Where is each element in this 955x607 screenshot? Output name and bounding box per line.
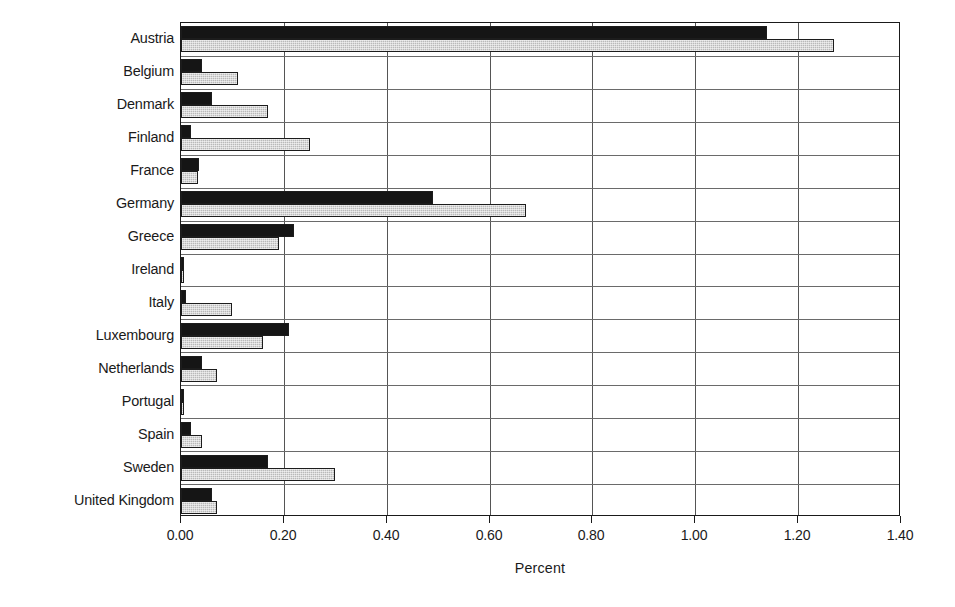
category-axis-labels: AustriaBelgiumDenmarkFinlandFranceGerman…	[0, 22, 174, 516]
category-label: France	[12, 162, 174, 178]
plot-area	[180, 22, 900, 516]
bar-group	[181, 352, 899, 385]
bar-series-1	[181, 92, 212, 105]
bar-series-1	[181, 257, 184, 270]
bar-series-2	[181, 39, 834, 52]
bar-series-1	[181, 455, 268, 468]
bar-series-1	[181, 191, 433, 204]
axis-tick	[900, 516, 901, 523]
category-label: Luxembourg	[12, 327, 174, 343]
bar-group	[181, 188, 899, 221]
axis-tick	[283, 516, 284, 523]
bar-series-2	[181, 237, 279, 250]
bar-group	[181, 254, 899, 287]
bar-series-2	[181, 270, 184, 283]
bar-series-2	[181, 138, 310, 151]
bar-series-2	[181, 468, 335, 481]
bar-group	[181, 286, 899, 319]
axis-tick	[591, 516, 592, 523]
bar-series-1	[181, 389, 184, 402]
category-label: Germany	[12, 195, 174, 211]
bar-group	[181, 418, 899, 451]
bar-series-1	[181, 125, 191, 138]
category-label: Netherlands	[12, 360, 174, 376]
bar-group	[181, 221, 899, 254]
bar-group	[181, 484, 899, 517]
x-axis-title: Percent	[198, 559, 882, 576]
axis-tick-label: 1.00	[657, 526, 732, 543]
bars-layer	[181, 23, 899, 515]
axis-tick-label: 0.00	[142, 526, 217, 543]
category-label: Denmark	[12, 96, 174, 112]
axis-tick	[489, 516, 490, 523]
axis-tick-label: 1.40	[862, 526, 937, 543]
category-label: United Kingdom	[12, 492, 174, 508]
bar-series-1	[181, 422, 191, 435]
bar-group	[181, 319, 899, 352]
bar-series-1	[181, 488, 212, 501]
bar-group	[181, 451, 899, 484]
bar-group	[181, 89, 899, 122]
bar-series-2	[181, 171, 198, 184]
bar-series-1	[181, 323, 289, 336]
axis-tick-label: 1.20	[760, 526, 835, 543]
bar-group	[181, 385, 899, 418]
category-label: Greece	[12, 228, 174, 244]
bar-series-1	[181, 356, 202, 369]
category-label: Portugal	[12, 393, 174, 409]
bar-series-1	[181, 26, 767, 39]
category-label: Austria	[12, 30, 174, 46]
category-label: Ireland	[12, 261, 174, 277]
axis-tick	[386, 516, 387, 523]
axis-tick	[180, 516, 181, 523]
bar-series-2	[181, 369, 217, 382]
axis-tick-label: 0.80	[554, 526, 629, 543]
axis-tick-label: 0.40	[348, 526, 423, 543]
bar-series-2	[181, 204, 526, 217]
axis-tick-label: 0.20	[245, 526, 320, 543]
bar-series-2	[181, 501, 217, 514]
bar-series-1	[181, 290, 186, 303]
bar-series-2	[181, 336, 263, 349]
category-label: Sweden	[12, 459, 174, 475]
bar-series-1	[181, 158, 199, 171]
bar-series-2	[181, 435, 202, 448]
bar-series-1	[181, 224, 294, 237]
category-label: Finland	[12, 129, 174, 145]
bar-group	[181, 23, 899, 56]
bar-group	[181, 56, 899, 89]
bar-group	[181, 155, 899, 188]
bar-series-1	[181, 59, 202, 72]
bar-series-2	[181, 72, 238, 85]
bar-series-2	[181, 303, 232, 316]
bar-group	[181, 122, 899, 155]
bar-chart-figure: AustriaBelgiumDenmarkFinlandFranceGerman…	[0, 0, 955, 607]
category-label: Spain	[12, 426, 174, 442]
axis-tick	[694, 516, 695, 523]
category-label: Italy	[12, 294, 174, 310]
bar-series-2	[181, 105, 268, 118]
axis-tick-label: 0.60	[451, 526, 526, 543]
axis-tick	[797, 516, 798, 523]
category-label: Belgium	[12, 63, 174, 79]
bar-series-2	[181, 402, 184, 415]
